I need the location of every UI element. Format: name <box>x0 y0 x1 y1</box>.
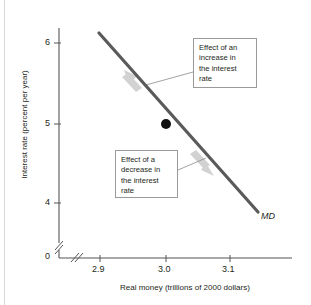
x-tick-label-29: 2.9 <box>92 264 105 274</box>
callout-increase-line-3: the interest <box>199 64 251 74</box>
x-tick-label-30: 3.0 <box>158 264 171 274</box>
callout-decrease-line-2: decrease in <box>121 165 172 175</box>
callout-increase-line-2: increase in <box>199 53 251 63</box>
y-axis-title: Interest rate (percent per year) <box>20 55 29 195</box>
callout-decrease-line-4: rate <box>121 186 172 196</box>
callout-increase-interest-rate: Effect of an increase in the interest ra… <box>193 38 257 88</box>
callout-decrease-line-3: the interest <box>121 176 172 186</box>
x-tick-label-31: 3.1 <box>222 264 235 274</box>
callout-decrease-interest-rate: Effect of a decrease in the interest rat… <box>115 150 178 198</box>
callout-increase-line-4: rate <box>199 74 251 84</box>
y-tick-label-4: 4 <box>45 197 50 207</box>
md-curve-label: MD <box>261 211 275 221</box>
increase-leader-line <box>146 72 193 85</box>
origin-label: 0 <box>45 251 50 261</box>
money-demand-chart: 6 5 4 0 2.9 3.0 3.1 Interest rate (perce… <box>0 0 311 305</box>
equilibrium-point <box>161 119 171 129</box>
x-axis-title: Real money (trillions of 2000 dollars) <box>120 283 250 292</box>
y-tick-label-5: 5 <box>45 118 50 128</box>
callout-increase-line-1: Effect of an <box>199 43 251 53</box>
y-tick-label-6: 6 <box>45 37 50 47</box>
callout-decrease-line-1: Effect of a <box>121 155 172 165</box>
increase-arrow-icon <box>122 70 142 92</box>
